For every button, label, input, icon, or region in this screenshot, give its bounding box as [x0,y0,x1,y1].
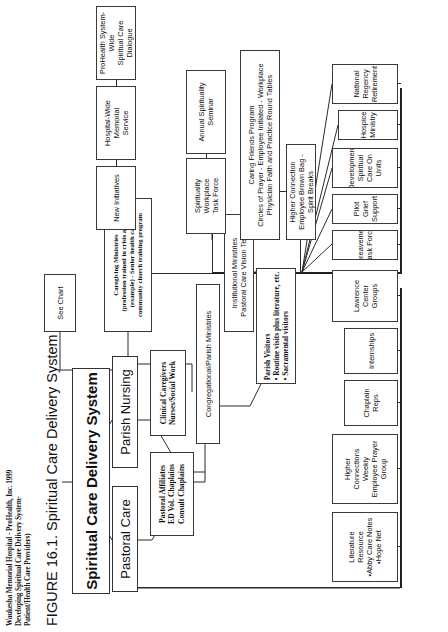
node-higher-connection-brown-bag-label: Higher Connection Employee Brown Bag - S… [288,147,315,237]
node-spirituality-workplace-task-force[interactable]: Spirituality Workplace Task Force [186,158,226,234]
node-caring-friends-program-label: Caring Friends Program Circles of Prayer… [247,63,274,226]
link-prohealth-dialogue [116,80,117,86]
node-hospital-wide-memorial-service[interactable]: Hospital-Wide Memorial Service [96,86,136,160]
node-caring-friends-program[interactable]: Caring Friends Program Circles of Prayer… [240,50,280,240]
node-new-initiatives-label: New Initiatives [112,174,121,222]
node-spirituality-workplace-task-force-label: Spirituality Workplace Task Force [193,161,220,231]
node-prohealth-system-wide-dialogue[interactable]: ProHealth System-Wide Spiritual Care Dia… [96,6,136,80]
link-hospital-memorial [116,160,117,166]
page-rotation-wrapper: Waukesha Memorial Hospital - ProHealth, … [0,0,448,632]
figure-canvas: Waukesha Memorial Hospital - ProHealth, … [0,0,448,632]
node-higher-connection-brown-bag[interactable]: Higher Connection Employee Brown Bag - S… [286,144,316,240]
node-annual-spirituality-seminar-label: Annual Spirituality Seminar [197,73,215,151]
node-hospital-wide-memorial-service-label: Hospital-Wide Memorial Service [103,89,130,157]
stem-caring-friends [280,191,286,192]
node-prohealth-system-wide-dialogue-label: ProHealth System-Wide Spiritual Care Dia… [98,9,134,77]
node-new-initiatives[interactable]: New Initiatives [96,166,136,230]
node-annual-spirituality-seminar[interactable]: Annual Spirituality Seminar [186,70,226,154]
link-spirituality-seminar [206,154,207,158]
